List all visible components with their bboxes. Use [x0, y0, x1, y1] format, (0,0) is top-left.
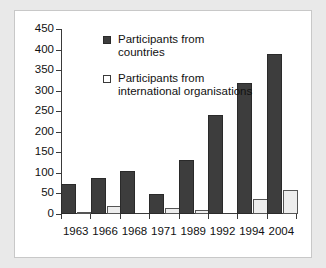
- legend-swatch-organisations-icon: [103, 75, 111, 83]
- x-axis-tick-label: 1994: [239, 226, 265, 238]
- y-axis-tick-label: 350: [35, 64, 54, 76]
- y-axis-tick-label: 50: [41, 188, 54, 200]
- x-axis-tick: [179, 214, 180, 219]
- x-axis-tick: [296, 214, 297, 219]
- bar-countries-1971: [149, 194, 164, 214]
- legend-label-countries: Participants from countries: [118, 33, 253, 59]
- chart-legend: Participants from countries Participants…: [103, 33, 253, 111]
- bar-countries-1966: [91, 178, 106, 214]
- legend-swatch-countries-icon: [103, 36, 111, 44]
- y-axis-tick-label: 250: [35, 105, 54, 117]
- y-axis-tick-label: 400: [35, 44, 54, 56]
- x-axis-tick-label: 1971: [151, 226, 177, 238]
- y-axis-tick-label: 450: [35, 23, 54, 35]
- x-axis-tick-label: 1989: [180, 226, 206, 238]
- y-axis-tick-label: 200: [35, 126, 54, 138]
- legend-item-organisations: Participants from international organisa…: [103, 72, 253, 98]
- x-axis-tick: [61, 214, 62, 219]
- legend-label-organisations: Participants from international organisa…: [118, 72, 253, 98]
- x-axis-tick: [208, 214, 209, 219]
- bar-group: [267, 29, 296, 214]
- x-axis-tick-label: 1992: [210, 226, 236, 238]
- bar-group: [61, 29, 90, 214]
- x-axis-tick: [149, 214, 150, 219]
- x-axis-tick-label: 2004: [269, 226, 295, 238]
- x-axis-tick: [120, 214, 121, 219]
- x-axis-tick: [90, 214, 91, 219]
- bar-orgs-2004: [283, 190, 298, 214]
- y-axis-tick-label: 100: [35, 167, 54, 179]
- y-axis-tick-label: 0: [48, 208, 54, 220]
- x-axis-tick-label: 1963: [63, 226, 89, 238]
- x-axis-tick: [237, 214, 238, 219]
- y-axis-tick-label: 300: [35, 85, 54, 97]
- x-axis-tick-label: 1966: [92, 226, 118, 238]
- bar-countries-1989: [179, 160, 194, 214]
- chart-figure: 050100150200250300350400450 196319661968…: [14, 10, 312, 258]
- bar-countries-2004: [267, 54, 282, 214]
- x-axis-tick: [267, 214, 268, 219]
- bar-countries-1963: [61, 184, 76, 214]
- bar-countries-1992: [208, 115, 223, 214]
- x-axis-tick-label: 1968: [122, 226, 148, 238]
- legend-item-countries: Participants from countries: [103, 33, 253, 59]
- y-axis-tick-label: 150: [35, 147, 54, 159]
- bar-countries-1968: [120, 171, 135, 214]
